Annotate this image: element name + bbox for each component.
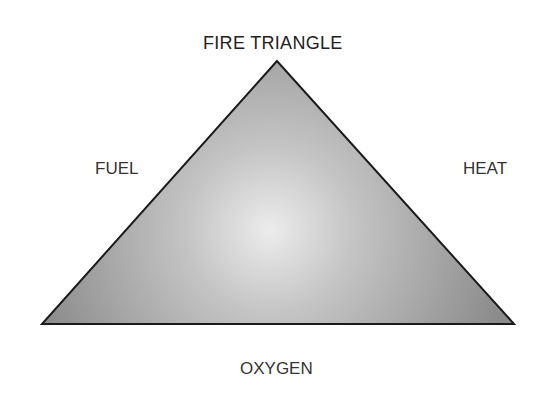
label-oxygen: OXYGEN [240, 359, 313, 379]
label-heat: HEAT [463, 159, 507, 179]
label-fuel: FUEL [95, 159, 138, 179]
fire-triangle-shape [0, 0, 541, 395]
triangle [42, 61, 514, 324]
